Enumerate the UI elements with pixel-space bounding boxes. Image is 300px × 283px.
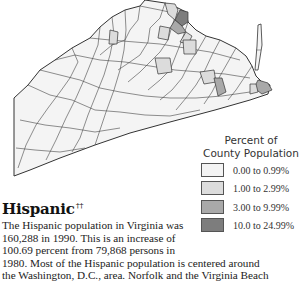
county-central-2 xyxy=(155,58,172,74)
legend-title: Percent of County Population xyxy=(196,134,300,160)
legend-title-line1: Percent of xyxy=(196,134,300,147)
legend-label: 1.00 to 2.99% xyxy=(233,183,289,194)
footnote-mark: †† xyxy=(76,201,84,210)
legend-swatch xyxy=(201,200,224,214)
section-heading: Hispanic†† xyxy=(2,200,83,218)
heading-text: Hispanic xyxy=(2,200,75,218)
county-shenandoah xyxy=(158,26,170,40)
body-line: 160,288 in 1990. This is an increase of xyxy=(2,232,269,245)
legend-item-2: 3.00 to 9.99% xyxy=(201,199,289,215)
body-line: 1980. Most of the Hispanic population is… xyxy=(2,257,269,270)
body-line: the Washington, D.C., area. Norfolk and … xyxy=(2,269,269,282)
body-line: 100.69 percent from 79,868 persons in xyxy=(2,244,269,257)
county-roanoke xyxy=(109,30,118,44)
county-central-1 xyxy=(183,40,196,54)
legend-label: 0.00 to 0.99% xyxy=(233,165,289,176)
legend-title-line2: County Population xyxy=(196,147,300,160)
eastern-shore xyxy=(255,24,262,70)
article-body: The Hispanic population in Virginia was … xyxy=(2,219,269,282)
legend-item-1: 1.00 to 2.99% xyxy=(201,180,289,196)
legend-label: 3.00 to 9.99% xyxy=(233,202,289,213)
legend-swatch xyxy=(201,163,224,177)
body-line: The Hispanic population in Virginia was xyxy=(2,219,269,232)
legend-item-0: 0.00 to 0.99% xyxy=(201,162,289,178)
legend-swatch xyxy=(201,181,224,195)
